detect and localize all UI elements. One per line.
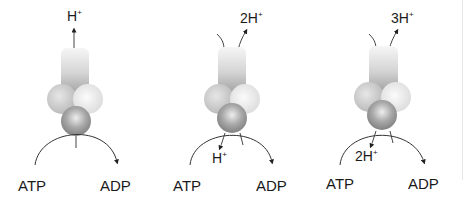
pump-1 (35, 30, 117, 165)
bottom-sphere-subunit (367, 100, 397, 130)
product-label-2: ADP (256, 177, 287, 194)
bottom-sphere-subunit (61, 106, 91, 136)
pump-3 (340, 31, 424, 165)
bottom-sphere-subunit (217, 103, 247, 133)
atp-to-adp-arrow-icon (190, 135, 272, 165)
substrate-label-1: ATP (18, 177, 46, 194)
pump-2 (190, 31, 272, 165)
release-arrow-icon (220, 133, 225, 148)
product-label-3: ADP (408, 175, 439, 192)
stalk-line (390, 131, 393, 143)
product-label-1: ADP (100, 177, 131, 194)
release-arrow-icon (371, 131, 376, 146)
atp-to-adp-arrow-icon (340, 135, 424, 165)
substrate-label-3: ATP (326, 175, 354, 192)
bottom-ion-label-2: H+ (212, 150, 227, 166)
substrate-label-2: ATP (173, 177, 201, 194)
bottom-ion-label-3: 2H+ (355, 148, 378, 164)
top-ion-label-2: 2H+ (240, 10, 263, 26)
top-ion-label-1: H+ (67, 8, 82, 24)
top-ion-label-3: 3H+ (391, 10, 414, 26)
stalk-line (240, 133, 243, 145)
diagram-canvas (0, 0, 463, 203)
